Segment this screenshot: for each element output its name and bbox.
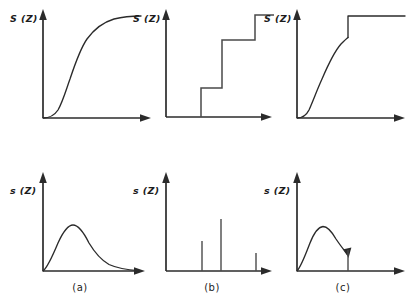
axis-label-S-of-Z-a-top: S (Z) xyxy=(10,13,38,24)
figure-background xyxy=(0,0,415,296)
figure-svg: S (Z) S (Z) S (Z) s (Z) (a) s (Z) xyxy=(0,0,415,296)
figure-panel-grid: S (Z) S (Z) S (Z) s (Z) (a) s (Z) xyxy=(0,0,415,296)
axis-label-s-of-Z-b-bottom: s (Z) xyxy=(133,185,160,196)
axis-label-s-of-Z-c-bottom: s (Z) xyxy=(264,185,291,196)
caption-a: (a) xyxy=(72,282,87,293)
caption-b: (b) xyxy=(204,282,220,293)
axis-label-s-of-Z-a-bottom: s (Z) xyxy=(10,185,37,196)
axis-label-S-of-Z-c-top: S (Z) xyxy=(264,13,292,24)
caption-c: (c) xyxy=(336,282,351,293)
axis-label-S-of-Z-b-top: S (Z) xyxy=(133,13,161,24)
